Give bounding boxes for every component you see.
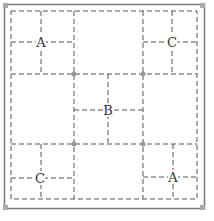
corner-mark-top-left: [3, 3, 8, 8]
intersection-dot: [72, 142, 77, 147]
label-bottom-right: A: [167, 170, 178, 185]
label-top-right: C: [167, 35, 177, 50]
label-center: B: [103, 103, 113, 118]
intersection-dot: [141, 72, 146, 77]
intersection-dot: [72, 72, 77, 77]
corner-mark-top-right: [200, 3, 205, 8]
corner-mark-bottom-right: [200, 205, 205, 210]
square-grid-diagram: A C B C A: [0, 0, 214, 221]
intersection-dot: [141, 142, 146, 147]
label-top-left: A: [35, 35, 46, 50]
corner-mark-bottom-left: [3, 205, 8, 210]
label-bottom-left: C: [35, 171, 45, 186]
